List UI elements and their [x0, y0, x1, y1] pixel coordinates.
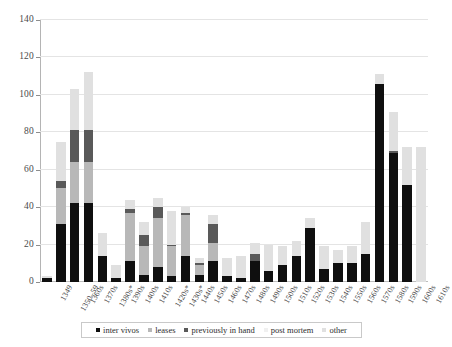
- y-tick-mark-40: [36, 207, 40, 208]
- bar-segment: [70, 89, 80, 130]
- bar-segment: [139, 222, 149, 235]
- bar-segment: [56, 142, 66, 181]
- legend-item[interactable]: post mortem: [264, 326, 314, 335]
- bar-segment: [250, 254, 260, 261]
- bar-segment: [375, 84, 385, 282]
- legend-swatch-icon: [96, 328, 100, 332]
- bar-column[interactable]: [139, 222, 149, 282]
- bar-column[interactable]: [250, 243, 260, 282]
- bar-column[interactable]: [319, 246, 329, 282]
- bar-segment: [84, 162, 94, 203]
- bar-segment: [56, 181, 66, 188]
- bar-segment: [375, 74, 385, 83]
- legend-item[interactable]: other: [322, 326, 346, 335]
- bar-column[interactable]: [42, 276, 52, 282]
- y-tick-mark-20: [36, 245, 40, 246]
- y-tick-label-20: 20: [0, 240, 34, 250]
- bar-segment: [84, 203, 94, 282]
- bar-column[interactable]: [416, 147, 426, 282]
- bar-column[interactable]: [278, 246, 288, 282]
- y-tick-mark-120: [36, 57, 40, 58]
- bar-segment: [389, 112, 399, 151]
- bar-segment: [208, 243, 218, 262]
- bar-segment: [56, 224, 66, 282]
- bar-segment: [264, 271, 274, 282]
- bar-segment: [125, 213, 135, 262]
- bar-segment: [416, 147, 426, 282]
- bar-segment: [361, 222, 371, 254]
- bar-segment: [70, 162, 80, 203]
- bar-segment: [153, 198, 163, 207]
- bar-segment: [181, 256, 191, 282]
- bar-segment: [250, 261, 260, 282]
- bar-column[interactable]: [361, 222, 371, 282]
- y-tick-label-40: 40: [0, 202, 34, 212]
- bar-column[interactable]: [333, 250, 343, 282]
- bar-segment: [319, 246, 329, 268]
- y-tick-label-120: 120: [0, 52, 34, 62]
- x-tick-label: 1349: [59, 284, 74, 302]
- bar-column[interactable]: [264, 245, 274, 282]
- bar-segment: [125, 261, 135, 282]
- plot-area: [40, 20, 428, 282]
- legend-label: other: [329, 326, 346, 335]
- y-tick-mark-80: [36, 132, 40, 133]
- bar-column[interactable]: [195, 258, 205, 282]
- bar-segment: [278, 246, 288, 265]
- bar-segment: [70, 130, 80, 162]
- bar-segment: [153, 218, 163, 267]
- legend-label: leases: [155, 326, 175, 335]
- bar-column[interactable]: [236, 256, 246, 282]
- bar-column[interactable]: [222, 258, 232, 282]
- bar-column[interactable]: [347, 246, 357, 282]
- bar-column[interactable]: [56, 142, 66, 282]
- bar-column[interactable]: [292, 241, 302, 282]
- bar-segment: [333, 263, 343, 282]
- y-tick-mark-0: [36, 282, 40, 283]
- bar-segment: [111, 265, 121, 278]
- bar-column[interactable]: [208, 215, 218, 282]
- bar-segment: [278, 265, 288, 282]
- bar-column[interactable]: [181, 207, 191, 282]
- bar-segment: [195, 265, 205, 274]
- bar-segment: [139, 275, 149, 282]
- bar-segment: [139, 246, 149, 274]
- y-tick-mark-60: [36, 170, 40, 171]
- bar-column[interactable]: [305, 218, 315, 282]
- bar-segment: [153, 207, 163, 218]
- bar-segment: [333, 250, 343, 263]
- bar-segment: [98, 256, 108, 282]
- bar-column[interactable]: [389, 112, 399, 282]
- legend-swatch-icon: [148, 328, 152, 332]
- bar-segment: [42, 278, 52, 282]
- bar-segment: [195, 275, 205, 282]
- bar-segment: [402, 185, 412, 282]
- bar-segment: [292, 256, 302, 282]
- y-tick-mark-140: [36, 20, 40, 21]
- legend-item[interactable]: inter vivos: [96, 326, 139, 335]
- y-tick-label-60: 60: [0, 165, 34, 175]
- legend-item[interactable]: leases: [148, 326, 175, 335]
- bar-segment: [292, 241, 302, 256]
- bar-column[interactable]: [167, 211, 177, 282]
- bar-segment: [56, 188, 66, 224]
- bar-segment: [84, 130, 94, 162]
- bar-column[interactable]: [153, 198, 163, 282]
- bar-column[interactable]: [125, 200, 135, 282]
- bar-segment: [250, 243, 260, 254]
- bar-column[interactable]: [111, 265, 121, 282]
- bar-segment: [181, 215, 191, 256]
- bar-column[interactable]: [98, 233, 108, 282]
- bar-column[interactable]: [375, 74, 385, 282]
- bar-segment: [402, 147, 412, 184]
- bar-column[interactable]: [402, 147, 412, 282]
- bar-segment: [305, 218, 315, 227]
- bar-segment: [208, 224, 218, 243]
- bar-segment: [167, 211, 177, 245]
- legend-item[interactable]: previously in hand: [184, 326, 254, 335]
- legend-label: previously in hand: [191, 326, 254, 335]
- bar-column[interactable]: [84, 72, 94, 282]
- bar-column[interactable]: [70, 89, 80, 282]
- bar-segment: [208, 215, 218, 224]
